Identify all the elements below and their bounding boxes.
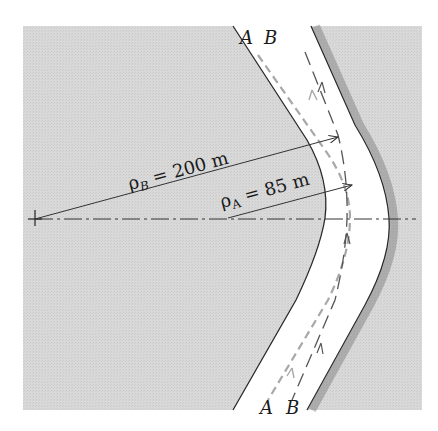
label-top-A: A xyxy=(238,27,253,48)
label-bottom-B: B xyxy=(285,397,299,418)
road-curve-diagram: ρB = 200 m ρA = 85 m A B A B xyxy=(0,0,438,431)
label-top-B: B xyxy=(263,27,277,48)
label-bottom-A: A xyxy=(258,397,273,418)
